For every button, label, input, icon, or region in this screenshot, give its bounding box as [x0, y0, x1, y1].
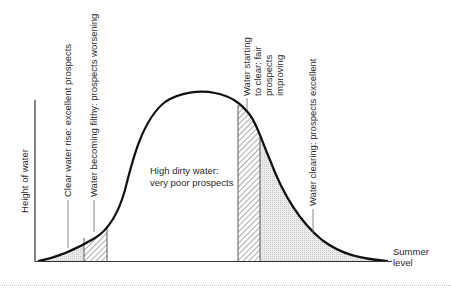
- center-label-line2: very poor prospects: [150, 177, 234, 188]
- annotation-starting-to-clear-line2: to clear: fair: [252, 46, 263, 96]
- summer-level-label-line1: Summer: [393, 246, 429, 257]
- annotation-clear-rise: Clear water rise: excellent prospects: [62, 44, 73, 197]
- clear-rise-region: [38, 80, 84, 261]
- annotation-starting-to-clear-line1: Water starting: [241, 37, 252, 96]
- annotation-becoming-filthy: Water becoming filthy: prospects worseni…: [88, 14, 99, 197]
- river-level-diagram: Height of water Summer level High dirty …: [0, 0, 451, 290]
- annotation-starting-to-clear-line3: prospects: [263, 55, 274, 96]
- center-label-line1: High dirty water:: [150, 165, 219, 176]
- clearing-region: [260, 80, 392, 261]
- starting-to-clear-region: [238, 80, 260, 261]
- annotation-starting-to-clear-line4: improving: [274, 55, 285, 96]
- annotation-clearing: Water clearing: prospects excellent: [307, 58, 318, 206]
- summer-level-label-line2: level: [393, 257, 413, 268]
- y-axis-label: Height of water: [19, 149, 30, 213]
